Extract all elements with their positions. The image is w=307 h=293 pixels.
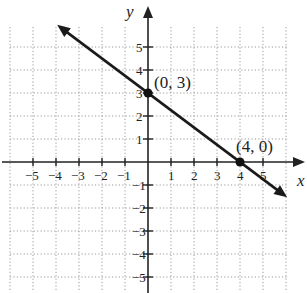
- y-tick-label: −3: [132, 224, 146, 239]
- data-point: [236, 158, 245, 167]
- x-axis-arrow-icon: [293, 157, 305, 167]
- x-tick-label: −1: [117, 168, 131, 183]
- x-tick-label: 1: [168, 168, 175, 183]
- x-tick-label: 3: [214, 168, 221, 183]
- x-tick-label: 4: [237, 168, 244, 183]
- y-tick-label: 2: [136, 109, 143, 124]
- y-axis-arrow-icon: [143, 6, 153, 18]
- point-label-x-intercept: (4, 0): [236, 137, 273, 156]
- line-arrow-end-icon: [273, 185, 287, 197]
- data-point: [144, 89, 153, 98]
- y-tick-label: −5: [132, 270, 146, 285]
- y-tick-label: −4: [132, 247, 146, 262]
- x-tick-label: −3: [71, 168, 85, 183]
- x-tick-label: 2: [191, 168, 198, 183]
- y-tick-label: 4: [136, 63, 143, 78]
- point-label-y-intercept: (0, 3): [154, 73, 191, 92]
- y-tick-label: 5: [136, 40, 143, 55]
- x-tick-label: −5: [25, 168, 39, 183]
- y-axis-label: y: [124, 2, 134, 21]
- x-tick-label: −4: [48, 168, 62, 183]
- y-tick-label: −1: [132, 178, 146, 193]
- x-tick-label: −2: [94, 168, 108, 183]
- x-axis-label: x: [296, 171, 305, 190]
- y-tick-label: 1: [136, 132, 143, 147]
- y-tick-label: −2: [132, 201, 146, 216]
- line-arrow-start-icon: [57, 25, 71, 37]
- coordinate-graph: −5−4−3−2−112345−5−4−3−2−112345 x y (0, 3…: [0, 0, 307, 293]
